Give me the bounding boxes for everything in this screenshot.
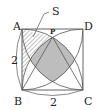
label-c: C [84, 96, 92, 107]
label-b: B [14, 96, 22, 107]
label-a: A [13, 21, 21, 32]
label-side-bottom: 2 [50, 97, 57, 108]
label-side-left: 2 [11, 55, 18, 66]
label-d: D [84, 21, 93, 32]
label-s: S [52, 6, 60, 17]
dimension-arc-bottom [22, 90, 83, 96]
label-p: P [50, 28, 55, 35]
